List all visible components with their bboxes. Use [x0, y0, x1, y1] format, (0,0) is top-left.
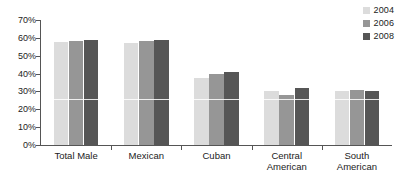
bar: [224, 72, 239, 145]
x-axis-tick-mark: [322, 146, 323, 150]
legend-item[interactable]: 2004: [363, 5, 394, 16]
x-axis-category-label: Cuban: [203, 150, 231, 161]
bar: [209, 74, 224, 145]
bar: [154, 40, 169, 145]
legend-swatch-icon: [363, 7, 370, 14]
legend-swatch-icon: [363, 20, 370, 27]
y-axis-tick-mark: [36, 74, 40, 75]
y-axis-tick-label: 70%: [18, 16, 36, 25]
x-axis-line: [40, 145, 392, 146]
legend-label: 2008: [374, 32, 394, 41]
y-axis-tick-label: 30%: [18, 87, 36, 96]
legend-label: 2006: [374, 19, 394, 28]
x-axis-category-label: South American: [337, 150, 377, 172]
y-axis-tick-label: 40%: [18, 69, 36, 78]
plot-area: 0%10%20%30%40%50%60%70% Total MaleMexica…: [0, 0, 398, 184]
legend-item[interactable]: 2006: [363, 18, 394, 29]
legend-item[interactable]: 2008: [363, 31, 394, 42]
y-axis-tick-mark: [36, 56, 40, 57]
bar: [279, 95, 294, 145]
bar: [335, 91, 350, 145]
bar: [69, 41, 84, 145]
x-axis-tick-mark: [111, 146, 112, 150]
grouped-bar-chart: 0%10%20%30%40%50%60%70% Total MaleMexica…: [0, 0, 398, 184]
y-axis-tick-mark: [36, 38, 40, 39]
bar: [139, 41, 154, 145]
x-axis-category-label: Mexican: [129, 150, 164, 161]
y-axis-tick-mark: [36, 91, 40, 92]
bar: [264, 91, 279, 145]
x-axis-category-label: Total Male: [54, 150, 97, 161]
y-axis-tick-label: 0%: [23, 141, 36, 150]
x-axis-tick-mark: [252, 146, 253, 150]
y-axis-tick-mark: [36, 20, 40, 21]
y-axis-tick-label: 20%: [18, 105, 36, 114]
bar: [194, 78, 209, 145]
bar: [295, 88, 310, 145]
legend-swatch-icon: [363, 33, 370, 40]
y-axis-tick-label: 50%: [18, 51, 36, 60]
bar: [124, 43, 139, 145]
chart-legend: 200420062008: [363, 5, 394, 42]
bar: [84, 40, 99, 145]
y-axis-tick-mark: [36, 127, 40, 128]
bar: [365, 91, 380, 145]
y-axis-tick-label: 60%: [18, 33, 36, 42]
y-axis-tick-labels: 0%10%20%30%40%50%60%70%: [6, 21, 36, 145]
y-axis-tick-mark: [36, 109, 40, 110]
x-axis-category-labels: Total MaleMexicanCubanCentral AmericanSo…: [41, 150, 392, 182]
x-axis-category-label: Central American: [267, 150, 307, 172]
legend-label: 2004: [374, 6, 394, 15]
bars-layer: [41, 20, 392, 145]
x-axis-tick-mark: [181, 146, 182, 150]
bar: [54, 42, 69, 145]
bar: [350, 90, 365, 145]
y-axis-tick-label: 10%: [18, 123, 36, 132]
y-axis-tick-mark: [36, 145, 40, 146]
